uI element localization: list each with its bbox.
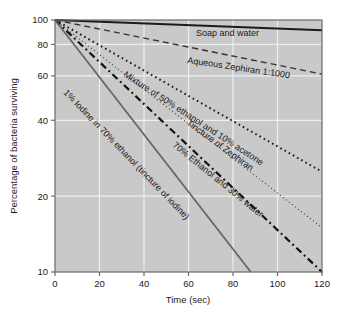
x-tick-label: 0 [52, 278, 57, 289]
x-tick-label: 120 [314, 278, 330, 289]
x-tick-label: 80 [228, 278, 239, 289]
y-axis-title: Percentage of bacteria surviving [8, 78, 19, 214]
y-tick-label: 100 [32, 14, 48, 25]
y-tick-label: 60 [37, 70, 48, 81]
y-tick-label: 10 [37, 266, 48, 277]
x-tick-label: 60 [183, 278, 194, 289]
chart-container: 1008060402010020406080100120 Time (sec) … [0, 0, 345, 316]
bacteria-survival-chart: 1008060402010020406080100120 Time (sec) … [0, 0, 345, 316]
y-tick-label: 20 [37, 191, 48, 202]
x-axis-title: Time (sec) [166, 294, 211, 305]
x-tick-label: 40 [139, 278, 150, 289]
y-tick-label: 80 [37, 39, 48, 50]
x-tick-label: 100 [270, 278, 286, 289]
y-tick-label: 40 [37, 115, 48, 126]
x-tick-label: 20 [94, 278, 105, 289]
curve-label-soap-and-water: Soap and water [196, 28, 259, 38]
